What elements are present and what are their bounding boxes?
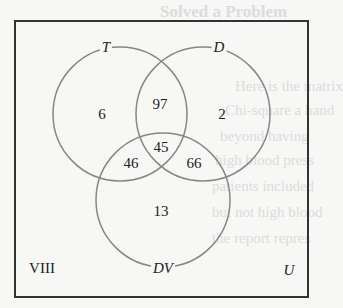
region-t-d-dv: 45 xyxy=(154,139,169,156)
region-t-only: 6 xyxy=(98,106,106,123)
region-d-dv: 66 xyxy=(187,155,202,172)
region-t-dv: 46 xyxy=(124,155,139,172)
set-label-dv: DV xyxy=(151,260,175,277)
region-dv-only: 13 xyxy=(154,203,169,220)
set-label-d: D xyxy=(212,39,227,56)
set-label-t: T xyxy=(100,39,112,56)
universe-box xyxy=(15,21,308,297)
region-d-only: 2 xyxy=(218,106,226,123)
circle-t xyxy=(53,47,187,181)
circle-d xyxy=(136,47,270,181)
figure-label: VIII xyxy=(29,260,55,277)
universe-label: U xyxy=(284,262,295,279)
region-t-d: 97 xyxy=(153,96,168,113)
